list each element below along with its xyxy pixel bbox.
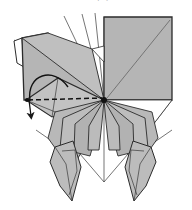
- left-pivot-point: [25, 98, 29, 102]
- center-convergence-point: [101, 97, 107, 103]
- guide-bottom-left: [80, 154, 104, 182]
- origami-diagram-svg: [0, 0, 192, 210]
- origami-figure-root: of the top layer: [0, 0, 192, 210]
- guide-bottom-right: [104, 154, 128, 182]
